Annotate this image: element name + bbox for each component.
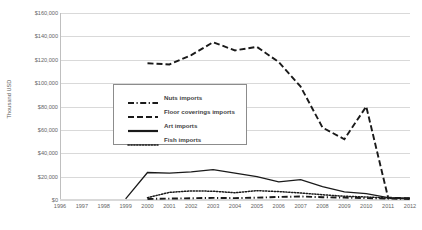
x-tick-label: 1996 xyxy=(54,203,66,209)
chart-legend: Nuts importsFloor coverings importsArt i… xyxy=(113,84,247,145)
x-tick-label: 2004 xyxy=(229,203,241,209)
legend-item-label: Fish imports xyxy=(164,136,201,143)
x-tick-label: 2007 xyxy=(294,203,306,209)
x-tick-label: 2000 xyxy=(141,203,153,209)
legend-item[interactable]: Nuts imports xyxy=(114,90,246,104)
legend-swatch-icon xyxy=(127,93,159,101)
legend-item[interactable]: Fish imports xyxy=(114,132,246,146)
series-line-art-imports xyxy=(126,170,410,199)
y-tick-label: $100,000 xyxy=(12,80,58,86)
x-tick-label: 2012 xyxy=(404,203,416,209)
x-axis-tick-labels: 1996199719981999200020012002200320042005… xyxy=(60,203,410,219)
y-tick-label: $80,000 xyxy=(12,104,58,110)
y-tick-label: $160,000 xyxy=(12,10,58,16)
y-tick-label: $0 xyxy=(12,197,58,203)
x-tick-label: 2009 xyxy=(338,203,350,209)
x-tick-label: 1997 xyxy=(76,203,88,209)
x-tick-label: 2008 xyxy=(316,203,328,209)
x-tick-label: 1998 xyxy=(98,203,110,209)
legend-item[interactable]: Floor coverings imports xyxy=(114,104,246,118)
y-tick-label: $120,000 xyxy=(12,57,58,63)
y-tick-label: $20,000 xyxy=(12,174,58,180)
x-tick-label: 2003 xyxy=(207,203,219,209)
gridline xyxy=(60,200,410,201)
legend-item-label: Floor coverings imports xyxy=(164,108,235,115)
legend-swatch-icon xyxy=(127,135,159,143)
y-tick-label: $40,000 xyxy=(12,150,58,156)
y-tick-label: $60,000 xyxy=(12,127,58,133)
legend-item[interactable]: Art imports xyxy=(114,118,246,132)
y-axis-tick-labels: $0$20,000$40,000$60,000$80,000$100,000$1… xyxy=(10,0,58,230)
y-tick-label: $140,000 xyxy=(12,33,58,39)
x-tick-label: 2006 xyxy=(273,203,285,209)
x-tick-label: 1999 xyxy=(119,203,131,209)
legend-swatch-icon xyxy=(127,121,159,129)
x-tick-label: 2010 xyxy=(360,203,372,209)
legend-item-label: Nuts imports xyxy=(164,94,202,101)
legend-swatch-icon xyxy=(127,107,159,115)
x-tick-label: 2005 xyxy=(251,203,263,209)
x-tick-label: 2011 xyxy=(382,203,394,209)
x-tick-label: 2002 xyxy=(185,203,197,209)
x-tick-label: 2001 xyxy=(163,203,175,209)
legend-item-label: Art imports xyxy=(164,122,197,129)
import-trends-line-chart: Thousand USD $0$20,000$40,000$60,000$80,… xyxy=(0,0,422,230)
